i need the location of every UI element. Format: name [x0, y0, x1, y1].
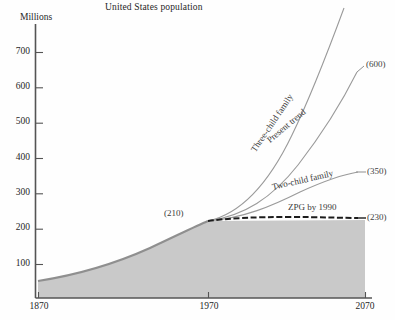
curve-label-zpg-by-1990: ZPG by 1990: [288, 202, 337, 212]
y-tick-label-300: 300: [4, 187, 30, 197]
series-line-present-trend: [208, 72, 357, 221]
y-axis-unit-label: Millions: [20, 12, 52, 22]
chart-container: United States population Millions 700 60…: [0, 0, 395, 320]
y-tick-label-100: 100: [4, 258, 30, 268]
chart-plot-area: [0, 0, 395, 320]
chart-title: United States population: [105, 2, 203, 12]
branch-point-annotation-210: (210): [164, 208, 184, 218]
y-tick-label-400: 400: [4, 152, 30, 162]
endpoint-label-600: (600): [366, 59, 386, 69]
y-tick-label-500: 500: [4, 116, 30, 126]
leader-line-600: [357, 66, 364, 72]
endpoint-label-350: (350): [367, 166, 387, 176]
x-tick-label-1970: 1970: [187, 301, 231, 311]
x-tick-label-1870: 1870: [17, 301, 61, 311]
y-tick-label-600: 600: [4, 81, 30, 91]
y-tick-label-700: 700: [4, 46, 30, 56]
historical-population-area: [38, 220, 365, 298]
endpoint-label-230: (230): [367, 212, 387, 222]
y-tick-label-200: 200: [4, 222, 30, 232]
x-tick-label-2070: 2070: [343, 301, 387, 311]
